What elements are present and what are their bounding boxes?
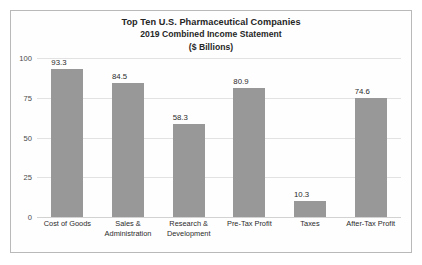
x-axis-category-label-line: Taxes: [280, 219, 341, 229]
y-axis-tick-label: 100: [19, 54, 32, 63]
x-axis-category-label-line: After-Tax Profit: [340, 219, 401, 229]
chart-subtitle: 2019 Combined Income Statement: [11, 28, 411, 40]
chart-units-label: ($ Billions): [11, 41, 411, 53]
y-axis-tick-label: 25: [24, 173, 32, 182]
plot-area: 1007550250 93.384.558.380.910.374.6: [37, 58, 401, 217]
bar-slot: 93.3: [37, 58, 98, 217]
bar[interactable]: 58.3: [173, 124, 205, 217]
bar[interactable]: 93.3: [51, 69, 83, 217]
gridline: 0: [37, 217, 401, 218]
x-axis-category-label: Sales &Administration: [98, 219, 159, 240]
x-axis-category-label-line: Pre-Tax Profit: [219, 219, 280, 229]
bar-slot: 84.5: [98, 58, 159, 217]
x-axis-category-label: Cost of Goods: [37, 219, 98, 240]
bar-value-label: 10.3: [294, 190, 309, 199]
bar-slot: 10.3: [280, 58, 341, 217]
bar[interactable]: 10.3: [294, 201, 326, 217]
bar-value-label: 84.5: [112, 72, 127, 81]
x-axis-category-label-line: Research &: [158, 219, 219, 229]
bar-value-label: 80.9: [233, 77, 248, 86]
chart-title-block: Top Ten U.S. Pharmaceutical Companies 20…: [11, 16, 411, 53]
x-axis-category-label-line: Development: [158, 229, 219, 239]
bar-slot: 74.6: [340, 58, 401, 217]
chart-frame: Top Ten U.S. Pharmaceutical Companies 20…: [10, 10, 412, 253]
bar-value-label: 74.6: [355, 87, 370, 96]
x-axis-category-label: Pre-Tax Profit: [219, 219, 280, 240]
x-axis-category-label: After-Tax Profit: [340, 219, 401, 240]
bar-slot: 80.9: [219, 58, 280, 217]
x-axis-category-label-line: Cost of Goods: [37, 219, 98, 229]
chart-title: Top Ten U.S. Pharmaceutical Companies: [11, 16, 411, 28]
x-axis-category-label: Taxes: [280, 219, 341, 240]
bar-value-label: 93.3: [51, 58, 66, 67]
bar[interactable]: 84.5: [112, 83, 144, 217]
y-axis-tick-label: 0: [28, 213, 32, 222]
bar-series: 93.384.558.380.910.374.6: [37, 58, 401, 217]
x-axis-category-label: Research &Development: [158, 219, 219, 240]
bar[interactable]: 74.6: [355, 98, 387, 217]
y-axis-tick-label: 50: [24, 133, 32, 142]
bar-slot: 58.3: [158, 58, 219, 217]
x-axis-category-label-line: Sales &: [98, 219, 159, 229]
bar[interactable]: 80.9: [233, 88, 265, 217]
x-axis-category-label-line: Administration: [98, 229, 159, 239]
y-axis-tick-label: 75: [24, 93, 32, 102]
bar-value-label: 58.3: [173, 113, 188, 122]
x-axis-category-labels: Cost of GoodsSales &AdministrationResear…: [37, 219, 401, 240]
